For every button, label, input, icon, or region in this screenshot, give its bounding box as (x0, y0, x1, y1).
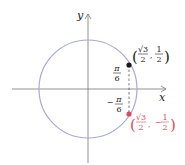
svg-text:1: 1 (162, 113, 167, 122)
svg-text:2: 2 (140, 55, 145, 64)
svg-text:6: 6 (116, 105, 121, 114)
x-axis-label: x (159, 91, 166, 104)
svg-text:π: π (115, 95, 122, 104)
y-axis-label: y (76, 9, 84, 22)
svg-text:): ) (170, 116, 176, 134)
svg-text:√3: √3 (136, 113, 146, 122)
point-upper (126, 62, 131, 67)
svg-text:,: , (150, 51, 153, 60)
svg-text:√3: √3 (138, 45, 148, 54)
svg-text:2: 2 (156, 55, 161, 64)
svg-text:−: − (107, 98, 114, 107)
svg-text:2: 2 (138, 123, 143, 132)
unit-circle-diagram: y x π 6 − π 6 ( √3 2 , 1 2 ) ( √3 2 , − … (0, 0, 185, 165)
angle-label-positive: π 6 (113, 64, 121, 83)
point-upper-label: ( √3 2 , 1 2 ) (132, 45, 170, 66)
svg-text:π: π (113, 64, 120, 73)
point-lower-label: ( √3 2 , − 1 2 ) (130, 113, 176, 134)
svg-text:1: 1 (156, 45, 161, 54)
svg-text:6: 6 (114, 74, 119, 83)
angle-label-negative: − π 6 (107, 95, 123, 114)
svg-text:−: − (155, 118, 162, 127)
svg-text:2: 2 (162, 123, 167, 132)
svg-text:): ) (164, 48, 170, 66)
svg-text:,: , (148, 120, 151, 129)
